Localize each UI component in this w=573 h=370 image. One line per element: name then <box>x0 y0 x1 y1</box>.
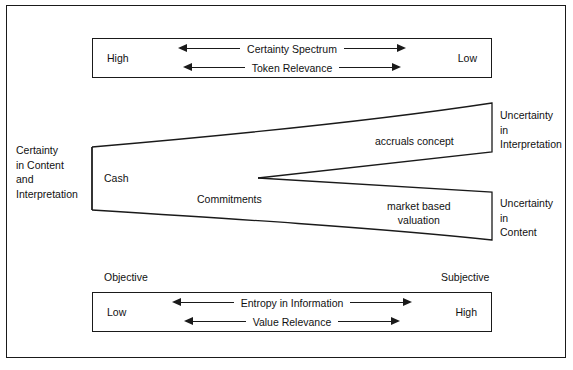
left-arrow-icon <box>184 317 246 326</box>
diagram-canvas: High Low Certainty Spectrum Token Releva… <box>0 0 573 370</box>
bottom-spectrum-arrow-rows: Entropy in Information Value Relevance <box>93 294 491 330</box>
right-arrow-icon <box>338 317 400 326</box>
bottom-spectrum-right-label: High <box>455 306 477 318</box>
funnel-label-accruals-concept: accruals concept <box>375 134 454 148</box>
right-arrow-icon <box>350 298 412 307</box>
funnel-label-commitments: Commitments <box>197 192 262 206</box>
left-axis-label: Certainty in Content and Interpretation <box>16 143 78 201</box>
funnel-label-cash: Cash <box>104 171 129 185</box>
bottom-spectrum-row-1: Entropy in Information <box>93 294 491 311</box>
bottom-spectrum-row-2-caption: Value Relevance <box>246 316 339 328</box>
bottom-spectrum-above-left-label: Objective <box>104 271 148 283</box>
bottom-spectrum-box: Low High Entropy in Information Value Re… <box>92 292 492 332</box>
funnel-label-market-based-valuation: market based valuation <box>387 199 451 227</box>
left-arrow-icon <box>172 298 234 307</box>
bottom-spectrum-left-label: Low <box>107 306 126 318</box>
bottom-spectrum-row-2: Value Relevance <box>93 313 491 330</box>
bottom-spectrum-row-1-caption: Entropy in Information <box>234 297 351 309</box>
bottom-spectrum-above-right-label: Subjective <box>441 271 489 283</box>
right-label-uncertainty-content: Uncertainty in Content <box>500 196 553 240</box>
right-label-uncertainty-interpretation: Uncertainty in Interpretation <box>500 108 562 152</box>
upper-wedge-outline <box>92 103 492 210</box>
